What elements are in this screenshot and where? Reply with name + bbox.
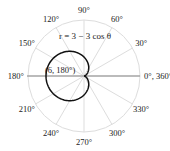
angle-label: 150° (19, 38, 35, 48)
angle-label: 180° (8, 71, 24, 81)
angle-label: 270° (76, 137, 92, 147)
angle-label: 60° (111, 14, 123, 24)
angle-label: 0°, 360° (144, 71, 170, 81)
polar-chart: 0°, 360°30°60°90°120°150°180°210°240°270… (0, 0, 170, 151)
angle-label: 90° (78, 5, 90, 15)
angle-label: 330° (133, 104, 149, 114)
angle-label: 240° (43, 128, 59, 138)
equation-label: r = 3 − 3 cos θ (59, 31, 111, 41)
point-annotation: (6, 180°) (45, 65, 75, 75)
angle-label: 300° (109, 128, 125, 138)
angle-label: 210° (19, 104, 35, 114)
angle-label: 30° (135, 38, 147, 48)
angle-label: 120° (43, 14, 59, 24)
